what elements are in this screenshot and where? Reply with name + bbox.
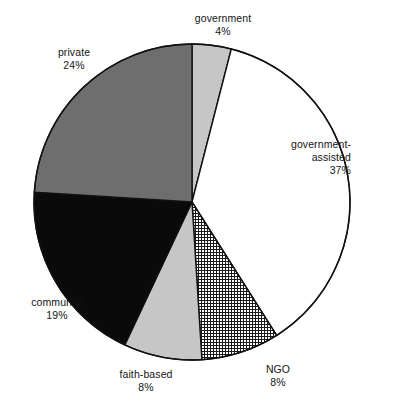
slice-label-community-percent: 19% (2, 309, 112, 322)
slice-label-government-assisted-name-line1: government- (243, 138, 351, 151)
slice-label-community: community 19% (2, 296, 112, 322)
slice-label-ngo-percent: 8% (228, 376, 328, 389)
pie-chart: government 4% government- assisted 37% p… (0, 0, 417, 410)
slice-label-community-name: community (2, 296, 112, 309)
slice-label-faith-based-name: faith-based (86, 368, 206, 381)
slice-label-government-name: government (163, 12, 283, 25)
slice-label-faith-based: faith-based 8% (86, 368, 206, 394)
slice-label-private: private 24% (19, 46, 129, 72)
slice-label-government-assisted: government- assisted 37% (243, 138, 351, 177)
slice-label-government-assisted-percent: 37% (243, 164, 351, 177)
slice-label-private-name: private (19, 46, 129, 59)
slice-label-ngo: NGO 8% (228, 363, 328, 389)
slice-label-government-percent: 4% (163, 25, 283, 38)
slice-label-private-percent: 24% (19, 59, 129, 72)
slice-label-government-assisted-name-line2: assisted (243, 151, 351, 164)
slice-label-faith-based-percent: 8% (86, 381, 206, 394)
slice-label-government: government 4% (163, 12, 283, 38)
slice-label-ngo-name: NGO (228, 363, 328, 376)
